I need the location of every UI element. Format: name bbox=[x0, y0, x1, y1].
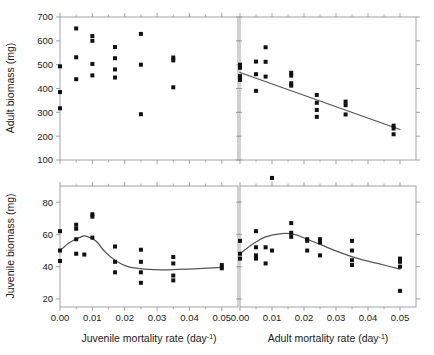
data-point bbox=[264, 45, 268, 49]
data-point bbox=[139, 63, 143, 67]
data-point bbox=[74, 227, 78, 231]
data-point bbox=[254, 257, 258, 261]
panel-bottom-left-frame bbox=[60, 186, 238, 307]
panel-top-left-ytick-label: 400 bbox=[37, 83, 53, 94]
panel-bottom-left-xtick-label: 0.02 bbox=[115, 312, 134, 323]
panel-bottom-left-xtick-label: 0.01 bbox=[83, 312, 102, 323]
data-point bbox=[305, 249, 309, 253]
data-point bbox=[90, 39, 94, 43]
data-point bbox=[238, 252, 242, 256]
data-point bbox=[58, 106, 62, 110]
data-point bbox=[74, 55, 78, 59]
data-point bbox=[238, 257, 242, 261]
data-point bbox=[264, 75, 268, 79]
panel-top-left-ytick-label: 300 bbox=[37, 107, 53, 118]
data-point bbox=[350, 258, 354, 262]
data-point bbox=[171, 278, 175, 282]
data-point bbox=[171, 255, 175, 259]
data-point bbox=[220, 266, 224, 270]
data-point bbox=[90, 34, 94, 38]
data-point bbox=[344, 112, 348, 116]
data-point bbox=[139, 260, 143, 264]
data-point bbox=[315, 93, 319, 97]
panel-bottom-left-xtick-label: 0.04 bbox=[180, 312, 199, 323]
data-point bbox=[392, 132, 396, 136]
panel-bottom-right-xtick-label: 0.02 bbox=[295, 312, 314, 323]
data-point bbox=[398, 289, 402, 293]
panel-top-left-ytick-label: 700 bbox=[37, 11, 53, 22]
panel-top-left-ytick-label: 500 bbox=[37, 59, 53, 70]
panel-top-right-frame bbox=[240, 17, 416, 160]
panel-bottom-right-xtick-label: 0.04 bbox=[359, 312, 378, 323]
data-point bbox=[90, 73, 94, 77]
data-point bbox=[58, 249, 62, 253]
data-point bbox=[350, 239, 354, 243]
data-point bbox=[113, 76, 117, 80]
data-point bbox=[139, 248, 143, 252]
panel-top-right bbox=[236, 13, 420, 164]
data-point bbox=[113, 56, 117, 60]
panel-top-left-ytick-label: 600 bbox=[37, 35, 53, 46]
panel-top-left-ytick-label: 200 bbox=[37, 131, 53, 142]
data-point bbox=[254, 229, 258, 233]
data-point bbox=[254, 89, 258, 93]
data-point bbox=[74, 237, 78, 241]
data-point bbox=[238, 74, 242, 78]
data-point bbox=[315, 108, 319, 112]
data-point bbox=[264, 60, 268, 64]
data-point bbox=[113, 245, 117, 249]
data-point bbox=[264, 245, 268, 249]
data-point bbox=[238, 78, 242, 82]
data-point bbox=[58, 259, 62, 263]
panel-bottom-left-xtick-label: 0.00 bbox=[51, 312, 70, 323]
data-point bbox=[58, 64, 62, 68]
panel-top-right-fit-line bbox=[240, 73, 400, 130]
x-axis-title-right: Adult mortality rate (day-1) bbox=[268, 332, 389, 344]
data-point bbox=[270, 176, 274, 180]
data-point bbox=[74, 26, 78, 30]
data-point bbox=[315, 115, 319, 119]
panel-bottom-right-xtick-label: 0.00 bbox=[231, 312, 250, 323]
panel-bottom-left: 204060800.000.010.020.030.040.05 bbox=[42, 182, 242, 323]
data-point bbox=[113, 45, 117, 49]
data-point bbox=[289, 221, 293, 225]
panel-top-left: 100200300400500600700 bbox=[37, 11, 242, 165]
data-point bbox=[113, 270, 117, 274]
data-point bbox=[344, 103, 348, 107]
data-point bbox=[289, 235, 293, 239]
data-point bbox=[139, 281, 143, 285]
figure-container: 100200300400500600700204060800.000.010.0… bbox=[0, 0, 434, 355]
data-point bbox=[113, 260, 117, 264]
multi-panel-scatter-figure: 100200300400500600700204060800.000.010.0… bbox=[0, 0, 434, 355]
data-point bbox=[171, 85, 175, 89]
data-point bbox=[58, 229, 62, 233]
data-point bbox=[171, 58, 175, 62]
data-point bbox=[289, 74, 293, 78]
x-axis-title-left: Juvenile mortality rate (day-1) bbox=[81, 332, 216, 344]
data-point bbox=[254, 60, 258, 64]
y-axis-title-top: Adult biomass (mg) bbox=[4, 43, 16, 133]
data-point bbox=[58, 90, 62, 94]
y-axis-title-bottom: Juvenile biomass (mg) bbox=[4, 193, 16, 298]
data-point bbox=[74, 223, 78, 227]
data-point bbox=[90, 62, 94, 66]
data-point bbox=[350, 249, 354, 253]
data-point bbox=[90, 236, 94, 240]
panel-top-left-ytick-label: 100 bbox=[37, 154, 53, 165]
data-point bbox=[171, 274, 175, 278]
data-point bbox=[392, 127, 396, 131]
data-point bbox=[139, 112, 143, 116]
data-point bbox=[254, 245, 258, 249]
panel-bottom-right-xtick-label: 0.03 bbox=[327, 312, 346, 323]
data-point bbox=[139, 32, 143, 36]
data-point bbox=[82, 253, 86, 257]
panel-bottom-right-xtick-label: 0.01 bbox=[263, 312, 282, 323]
data-point bbox=[74, 252, 78, 256]
panel-bottom-right: 0.000.010.020.030.040.05 bbox=[231, 176, 420, 323]
panel-bottom-right-xtick-label: 0.05 bbox=[391, 312, 410, 323]
data-point bbox=[90, 215, 94, 219]
data-point bbox=[238, 239, 242, 243]
data-point bbox=[289, 84, 293, 88]
data-point bbox=[113, 67, 117, 71]
panel-bottom-left-xtick-label: 0.03 bbox=[148, 312, 167, 323]
